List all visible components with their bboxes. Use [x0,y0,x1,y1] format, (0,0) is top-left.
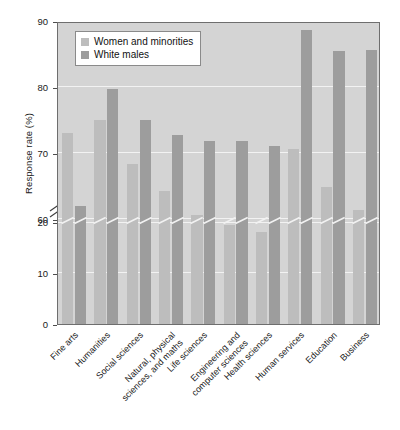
y-tick-label: 10 [14,269,48,279]
legend-item-women-and-minorities: Women and minorities [81,35,193,48]
bar [127,164,138,324]
y-tick-label: 60 [14,215,48,225]
bar [107,89,118,324]
legend-item-white-males: White males [81,48,193,61]
bar [62,133,73,324]
bar [172,135,183,324]
y-tick-label: 0 [14,320,48,330]
bar [301,30,312,324]
bar [204,141,215,324]
bar [75,206,86,324]
legend-label-white-males: White males [94,50,149,60]
bar [224,225,235,324]
bar [269,146,280,324]
gridline [58,152,379,153]
y-tick-mark [53,325,57,326]
gridline [58,86,379,87]
legend-label-women-and-minorities: Women and minorities [94,37,193,47]
chart-figure: Response rate (%) 0102060708090 Women an… [0,0,400,430]
y-tick-label: 70 [14,149,48,159]
bar [288,149,299,324]
bar [191,215,202,324]
legend-swatch-white-males [81,51,89,59]
bar [140,120,151,324]
bar [159,191,170,324]
legend-swatch-women-and-minorities [81,38,89,46]
bar [333,51,344,324]
bar [236,141,247,324]
plot-area [57,22,380,325]
bar [256,232,267,324]
y-tick-label: 80 [14,83,48,93]
bar [94,120,105,324]
y-tick-label: 90 [14,17,48,27]
bar [366,50,377,324]
bar [321,187,332,324]
chart-legend: Women and minorities White males [75,31,201,66]
bar [353,210,364,324]
